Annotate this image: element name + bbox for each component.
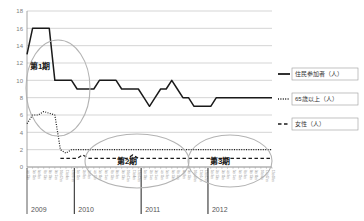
x-axis-month-label: 9月13日 — [121, 170, 125, 180]
x-axis-month-label: 5月10日 — [98, 170, 102, 180]
x-axis-month-label: 7月13日 — [43, 170, 47, 180]
x-axis-month-label: 5月9日 — [165, 170, 169, 179]
annotation-label-3: 第3期 — [210, 156, 230, 166]
y-axis-tick-label: 16 — [16, 26, 23, 32]
x-axis-month-label: 11月9日 — [65, 170, 69, 180]
x-axis-month-label: 10月11日 — [126, 170, 130, 182]
y-axis-tick-label: 2 — [20, 147, 24, 153]
y-axis-tick-label: 10 — [16, 78, 23, 84]
annotation-label-1: 第1期 — [30, 61, 50, 71]
year-label: 2009 — [31, 206, 47, 213]
annotation-label-2: 第2期 — [117, 156, 137, 166]
y-axis-tick-label: 18 — [16, 8, 23, 14]
x-axis-month-label: 3月12日 — [221, 170, 225, 180]
y-axis-tick-label: 8 — [20, 95, 24, 101]
y-axis-tick-label: 6 — [20, 112, 24, 118]
y-axis-tick-label: 4 — [20, 130, 24, 136]
y-axis-tick-label: 14 — [16, 43, 23, 49]
x-axis-month-label: 7月9日 — [243, 170, 247, 179]
x-axis-month-label: 6月11日 — [238, 170, 242, 180]
x-axis-month-label: 6月8日 — [37, 170, 41, 179]
x-axis-month-label: 1月9日 — [210, 170, 214, 179]
x-axis-month-label: 1月10日 — [143, 170, 147, 180]
x-axis-month-label: 11月8日 — [132, 170, 136, 180]
line-chart: 0246810121416184月13日5月11日6月8日7月13日8月10日9… — [0, 0, 364, 221]
y-axis-tick-label: 0 — [20, 164, 24, 170]
x-axis-month-label: 7月12日 — [110, 170, 114, 180]
x-axis-month-label: 8月13日 — [249, 170, 253, 180]
x-axis-month-label: 6月13日 — [171, 170, 175, 180]
x-axis-month-label: 8月9日 — [115, 170, 119, 179]
x-axis-month-label: 1月11日 — [76, 170, 80, 180]
year-label: 2011 — [145, 206, 160, 213]
x-axis-month-label: 12月10日 — [271, 170, 275, 182]
x-axis-month-label: 2月8日 — [82, 170, 86, 179]
x-axis-month-label: 2月13日 — [215, 170, 219, 180]
chart-container: 0246810121416184月13日5月11日6月8日7月13日8月10日9… — [0, 0, 364, 221]
legend-label-2: 65歳以上（人） — [295, 95, 338, 102]
x-axis-month-label: 8月10日 — [48, 170, 52, 180]
year-label: 2010 — [78, 206, 94, 213]
x-axis-month-label: 10月12日 — [59, 170, 63, 182]
x-axis-month-label: 4月11日 — [160, 170, 164, 180]
x-axis-month-label: 9月14日 — [54, 170, 58, 180]
x-axis-month-label: 4月9日 — [226, 170, 230, 179]
x-axis-month-label: 6月14日 — [104, 170, 108, 180]
year-label: 2012 — [212, 206, 228, 213]
x-axis-month-label: 5月14日 — [232, 170, 236, 180]
legend-label-3: 女性（人） — [295, 120, 325, 128]
x-axis-month-label: 2月14日 — [149, 170, 153, 180]
x-axis-month-label: 9月10日 — [254, 170, 258, 180]
x-axis-month-label: 5月11日 — [32, 170, 36, 180]
plot-area — [27, 11, 272, 167]
legend-label-1: 住民参加者（人） — [295, 70, 343, 78]
x-axis-month-label: 3月14日 — [154, 170, 158, 180]
y-axis-tick-label: 12 — [16, 60, 23, 66]
